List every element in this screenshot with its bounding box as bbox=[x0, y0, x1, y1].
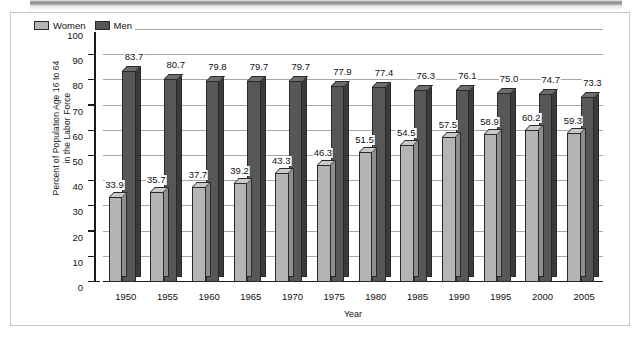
chart-figure: Percent of Population Age 16 to 64 in th… bbox=[10, 12, 630, 326]
bar-women-1985[interactable] bbox=[400, 145, 414, 282]
bar-side-face bbox=[414, 140, 419, 277]
bar-face bbox=[234, 183, 248, 282]
plot-inner: 33.983.7195035.780.7195537.779.8196039.2… bbox=[103, 30, 603, 282]
bar-side-face bbox=[302, 76, 307, 277]
y-axis-tick bbox=[88, 104, 94, 105]
value-label-men-1970: 79.7 bbox=[290, 62, 311, 72]
bar-women-1970[interactable] bbox=[275, 173, 289, 282]
y-axis-tick bbox=[88, 155, 94, 156]
y-axis-title-line2: in the Labor Force bbox=[62, 28, 73, 228]
bar-women-1995[interactable] bbox=[484, 134, 498, 282]
bar-group: 59.373.32005 bbox=[561, 30, 603, 282]
bar-face bbox=[275, 173, 289, 282]
bar-group: 35.780.71955 bbox=[145, 30, 187, 282]
bar-side-face bbox=[206, 182, 211, 277]
plot-area: 33.983.7195035.780.7195537.779.8196039.2… bbox=[103, 30, 603, 282]
bar-side-face bbox=[247, 178, 252, 277]
bar-women-2005[interactable] bbox=[567, 133, 581, 282]
bar-side-face bbox=[552, 89, 557, 277]
y-axis-tick bbox=[88, 54, 94, 55]
y-axis-tick bbox=[88, 256, 94, 257]
bar-side-face bbox=[331, 160, 336, 277]
bar-face bbox=[484, 134, 498, 282]
x-axis-label-1975: 1975 bbox=[324, 291, 345, 302]
bar-side-face bbox=[164, 187, 169, 277]
bar-group: 58.975.01995 bbox=[478, 30, 520, 282]
chart-legend: Women Men bbox=[31, 19, 135, 32]
bar-side-face bbox=[386, 82, 391, 277]
legend-label-women: Women bbox=[53, 20, 86, 31]
x-axis-label-1965: 1965 bbox=[240, 291, 261, 302]
bar-side-face bbox=[344, 81, 349, 277]
bar-side-face bbox=[497, 129, 502, 277]
bar-face bbox=[359, 152, 373, 282]
bar-group: 43.379.71970 bbox=[270, 30, 312, 282]
y-axis-tick bbox=[88, 205, 94, 206]
value-label-men-1975: 77.9 bbox=[332, 67, 353, 77]
bar-women-1950[interactable] bbox=[109, 197, 123, 282]
value-label-men-1955: 80.7 bbox=[165, 60, 186, 70]
bar-women-1960[interactable] bbox=[192, 187, 206, 282]
bar-side-face bbox=[122, 192, 127, 277]
bar-women-1965[interactable] bbox=[234, 183, 248, 282]
x-axis-label-2000: 2000 bbox=[532, 291, 553, 302]
bar-women-1975[interactable] bbox=[317, 165, 331, 282]
bar-face bbox=[150, 192, 164, 282]
bar-face bbox=[109, 197, 123, 282]
value-label-women-1985: 54.5 bbox=[396, 128, 417, 138]
bar-face bbox=[525, 130, 539, 282]
bar-face bbox=[567, 133, 581, 282]
bar-side-face bbox=[539, 125, 544, 277]
bar-side-face bbox=[289, 168, 294, 277]
bar-face bbox=[400, 145, 414, 282]
value-label-women-1970: 43.3 bbox=[271, 156, 292, 166]
y-axis-title-line1: Percent of Population Age 16 to 64 bbox=[51, 28, 62, 228]
y-axis-tick bbox=[88, 180, 94, 181]
x-axis-label-1950: 1950 bbox=[115, 291, 136, 302]
bar-group: 39.279.71965 bbox=[228, 30, 270, 282]
bar-group: 46.377.91975 bbox=[311, 30, 353, 282]
bar-group: 37.779.81960 bbox=[186, 30, 228, 282]
legend-swatch-women-icon bbox=[34, 21, 49, 30]
legend-item-women: Women bbox=[34, 20, 86, 31]
value-label-men-1960: 79.8 bbox=[207, 62, 228, 72]
y-axis-tick bbox=[88, 281, 94, 282]
bar-group: 33.983.71950 bbox=[103, 30, 145, 282]
bar-women-1955[interactable] bbox=[150, 192, 164, 282]
bar-side-face bbox=[219, 76, 224, 277]
value-label-men-2005: 73.3 bbox=[582, 78, 603, 88]
bar-group: 57.576.11990 bbox=[436, 30, 478, 282]
value-label-men-1980: 77.4 bbox=[374, 68, 395, 78]
value-label-women-1955: 35.7 bbox=[146, 175, 167, 185]
bar-women-1990[interactable] bbox=[442, 137, 456, 282]
value-label-men-1990: 76.1 bbox=[457, 71, 478, 81]
x-axis-label-1980: 1980 bbox=[365, 291, 386, 302]
bar-women-1980[interactable] bbox=[359, 152, 373, 282]
bar-side-face bbox=[177, 74, 182, 277]
legend-item-men: Men bbox=[95, 20, 132, 31]
y-axis-tick bbox=[88, 130, 94, 131]
bar-group: 60.274.72000 bbox=[520, 30, 562, 282]
x-axis-label-1990: 1990 bbox=[449, 291, 470, 302]
bar-face bbox=[192, 187, 206, 282]
y-axis-tick bbox=[88, 79, 94, 80]
x-axis-label-1955: 1955 bbox=[157, 291, 178, 302]
bar-side-face bbox=[427, 85, 432, 277]
value-label-women-1965: 39.2 bbox=[229, 166, 250, 176]
y-axis-spine bbox=[94, 30, 96, 282]
bar-group: 51.577.41980 bbox=[353, 30, 395, 282]
legend-label-men: Men bbox=[114, 20, 132, 31]
bar-side-face bbox=[581, 128, 586, 277]
value-label-women-1960: 37.7 bbox=[188, 170, 209, 180]
bar-group: 54.576.31985 bbox=[395, 30, 437, 282]
y-axis-tick bbox=[88, 230, 94, 231]
bar-side-face bbox=[511, 88, 516, 277]
value-label-women-1990: 57.5 bbox=[438, 120, 459, 130]
bar-women-2000[interactable] bbox=[525, 130, 539, 282]
bar-side-face bbox=[594, 92, 599, 277]
value-label-women-1975: 46.3 bbox=[313, 148, 334, 158]
value-label-men-1985: 76.3 bbox=[415, 71, 436, 81]
bar-side-face bbox=[469, 85, 474, 277]
bar-side-face bbox=[456, 132, 461, 277]
bar-side-face bbox=[136, 66, 141, 277]
